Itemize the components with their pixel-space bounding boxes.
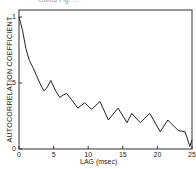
- svg-text:10: 10: [84, 151, 92, 158]
- svg-text:1: 1: [12, 13, 16, 20]
- svg-text:15: 15: [119, 151, 127, 158]
- svg-text:5: 5: [12, 79, 16, 86]
- plot-frame: [19, 10, 192, 149]
- svg-text:0: 0: [17, 151, 21, 158]
- autocorrelation-line: [19, 17, 192, 146]
- svg-text:25: 25: [188, 151, 196, 158]
- plot-area: 0510152025051: [0, 0, 196, 169]
- svg-text:5: 5: [52, 151, 56, 158]
- svg-text:20: 20: [154, 151, 162, 158]
- axis-ticks: 0510152025051: [12, 13, 196, 158]
- svg-text:0: 0: [12, 145, 16, 152]
